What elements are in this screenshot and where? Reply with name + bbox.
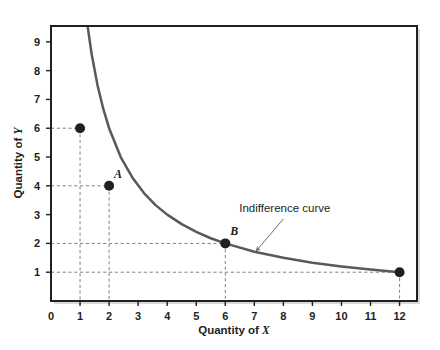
data-point — [220, 238, 230, 248]
y-tick-label: 2 — [34, 237, 40, 249]
data-point — [395, 267, 405, 277]
x-tick-label: 1 — [77, 310, 83, 322]
y-tick-label: 5 — [34, 151, 40, 163]
y-tick-label: 1 — [34, 266, 40, 278]
y-axis-title: Quantity of Y — [12, 127, 24, 199]
annotation-label: Indifference curve — [239, 202, 330, 214]
plot-background — [51, 26, 417, 301]
x-tick-label: 4 — [164, 310, 171, 322]
indifference-curve-figure: 0123456789101112 123456789 AB Indifferen… — [0, 0, 440, 350]
y-tick-label: 4 — [34, 180, 41, 192]
chart-canvas: 0123456789101112 123456789 AB Indifferen… — [0, 0, 440, 350]
y-tick-label: 3 — [34, 209, 40, 221]
y-tick-label: 6 — [34, 122, 40, 134]
x-axis-title: Quantity of X — [198, 324, 270, 336]
y-axis-tick-labels: 123456789 — [34, 36, 41, 278]
y-tick-label: 8 — [34, 65, 40, 77]
data-point-label: B — [229, 224, 238, 238]
y-tick-label: 9 — [34, 36, 40, 48]
x-tick-label: 9 — [309, 310, 315, 322]
x-tick-label: 5 — [193, 310, 199, 322]
x-tick-label: 3 — [135, 310, 141, 322]
y-tick-label: 7 — [34, 93, 40, 105]
x-axis-tick-labels: 0123456789101112 — [48, 310, 406, 322]
x-tick-label: 10 — [335, 310, 347, 322]
data-point — [75, 123, 85, 133]
x-tick-label: 0 — [48, 310, 54, 322]
x-tick-label: 11 — [365, 310, 377, 322]
x-tick-label: 12 — [393, 310, 405, 322]
data-point-label: A — [113, 167, 122, 181]
x-tick-label: 6 — [222, 310, 228, 322]
x-tick-label: 7 — [251, 310, 257, 322]
x-tick-label: 8 — [280, 310, 286, 322]
data-point — [104, 181, 114, 191]
x-tick-label: 2 — [106, 310, 112, 322]
